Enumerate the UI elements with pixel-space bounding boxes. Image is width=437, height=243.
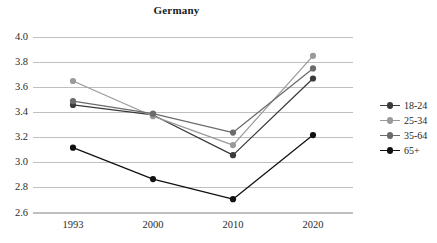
legend-item-18-24[interactable]: 18-24 (380, 98, 437, 113)
x-tick-label: 2000 (131, 219, 175, 230)
series-18-24 (70, 75, 316, 158)
chart-legend: 18-2425-3435-6465+ (380, 98, 437, 158)
legend-label: 18-24 (400, 100, 427, 111)
legend-dot-icon (387, 102, 393, 108)
series-65+ (70, 132, 316, 202)
y-tick-label: 3.4 (2, 107, 28, 117)
gridlines (33, 37, 353, 213)
legend-item-35-64[interactable]: 35-64 (380, 128, 437, 143)
data-point (150, 176, 156, 182)
y-tick-label: 4.0 (2, 32, 28, 42)
y-tick-label: 3.2 (2, 132, 28, 142)
data-point (310, 75, 316, 81)
legend-item-65+[interactable]: 65+ (380, 143, 437, 158)
legend-label: 65+ (400, 145, 420, 156)
legend-marker-icon (380, 145, 400, 156)
y-tick-label: 2.8 (2, 182, 28, 192)
data-point (310, 65, 316, 71)
legend-item-25-34[interactable]: 25-34 (380, 113, 437, 128)
data-point (230, 129, 236, 135)
data-point (310, 132, 316, 138)
legend-label: 25-34 (400, 115, 427, 126)
legend-marker-icon (380, 130, 400, 141)
data-point (230, 196, 236, 202)
series-25-34 (70, 53, 316, 148)
data-point (230, 142, 236, 148)
legend-marker-icon (380, 115, 400, 126)
x-tick-label: 2010 (211, 219, 255, 230)
series-line (73, 135, 313, 199)
series-line (73, 56, 313, 145)
series-35-64 (70, 65, 316, 135)
data-point (70, 145, 76, 151)
legend-dot-icon (387, 147, 393, 153)
x-tick-label: 1993 (51, 219, 95, 230)
y-tick-label: 2.6 (2, 208, 28, 218)
y-tick-label: 3.0 (2, 157, 28, 167)
legend-dot-icon (387, 132, 393, 138)
plot-area (0, 0, 437, 243)
legend-label: 35-64 (400, 130, 427, 141)
y-tick-label: 3.8 (2, 57, 28, 67)
data-point (230, 152, 236, 158)
x-tick-label: 2020 (291, 219, 335, 230)
line-chart: Germany 2.62.83.03.23.43.63.84.0 1993200… (0, 0, 437, 243)
series-line (73, 78, 313, 155)
legend-marker-icon (380, 100, 400, 111)
legend-dot-icon (387, 117, 393, 123)
series-line (73, 68, 313, 132)
data-point (150, 111, 156, 117)
data-point (70, 98, 76, 104)
y-tick-label: 3.6 (2, 82, 28, 92)
data-point (310, 53, 316, 59)
data-point (70, 78, 76, 84)
series-layer (70, 53, 316, 203)
